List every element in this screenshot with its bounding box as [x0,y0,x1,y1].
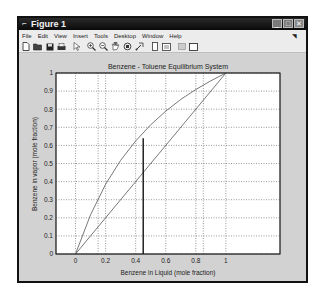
y-tick-label: 0.9 [44,87,53,94]
y-tick-label: 0.5 [44,160,53,167]
y-tick-label: 1 [49,69,53,76]
x-tick-label: 0 [74,257,78,264]
chart: Benzene - Toluene Equilibrium System 00.… [0,0,324,300]
x-tick-label: 0.2 [101,257,110,264]
y-tick-label: 0 [49,250,53,257]
y-axis-ticks: 00.10.20.30.40.50.60.70.80.91 [44,69,53,257]
y-tick-label: 0.6 [44,142,53,149]
x-tick-label: 0.4 [131,257,140,264]
x-axis-label: Benzene in Liquid (mole fraction) [120,269,215,277]
x-tick-label: 0.6 [161,257,170,264]
y-tick-label: 0.3 [44,196,53,203]
y-axis-label: Benzene in vapor (mole fraction) [31,117,39,211]
plot-area[interactable] [56,73,280,254]
y-tick-label: 0.1 [44,232,53,239]
y-tick-label: 0.8 [44,106,53,113]
chart-title: Benzene - Toluene Equilibrium System [108,63,228,71]
y-tick-label: 0.4 [44,178,53,185]
y-tick-label: 0.2 [44,214,53,221]
x-axis-ticks: 00.20.40.60.81 [74,257,228,264]
x-tick-label: 0.8 [191,257,200,264]
x-tick-label: 1 [224,257,228,264]
y-tick-label: 0.7 [44,124,53,131]
